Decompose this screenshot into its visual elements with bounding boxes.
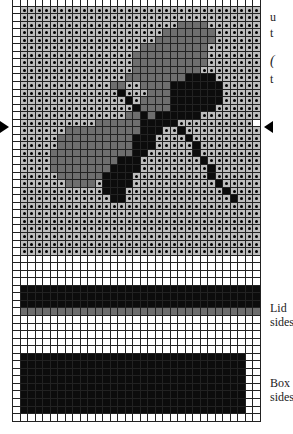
grid-cell: [238, 112, 246, 120]
grid-cell: [178, 346, 186, 354]
grid-cell: [171, 29, 179, 37]
grid-cell: [118, 407, 126, 415]
grid-cell: [223, 248, 231, 256]
grid-cell: [193, 210, 201, 218]
grid-cell: [193, 376, 201, 384]
grid-cell: [36, 135, 44, 143]
grid-cell: [13, 339, 21, 347]
grid-cell: [141, 29, 149, 37]
grid-cell: [111, 263, 119, 271]
grid-cell: [111, 293, 119, 301]
grid-cell: [156, 157, 164, 165]
grid-cell: [103, 407, 111, 415]
grid-cell: [133, 7, 141, 15]
grid-cell: [223, 210, 231, 218]
grid-cell: [193, 369, 201, 377]
grid-cell: [246, 52, 254, 60]
grid-cell: [73, 157, 81, 165]
grid-cell: [133, 142, 141, 150]
grid-cell: [126, 218, 134, 226]
grid-cell: [51, 97, 59, 105]
grid-cell: [96, 308, 104, 316]
grid-cell: [126, 301, 134, 309]
grid-cell: [171, 142, 179, 150]
grid-cell: [216, 135, 224, 143]
grid-cell: [21, 112, 29, 120]
grid-cell: [96, 414, 104, 422]
grid-cell: [88, 376, 96, 384]
grid-cell: [148, 59, 156, 67]
grid-cell: [186, 384, 194, 392]
grid-cell: [111, 37, 119, 45]
grid-cell: [223, 339, 231, 347]
grid-cell: [246, 218, 254, 226]
grid-cell: [133, 316, 141, 324]
grid-cell: [216, 127, 224, 135]
grid-cell: [88, 361, 96, 369]
grid-cell: [186, 67, 194, 75]
grid-cell: [43, 339, 51, 347]
grid-cell: [28, 376, 36, 384]
grid-cell: [43, 52, 51, 60]
grid-cell: [156, 293, 164, 301]
grid-cell: [133, 82, 141, 90]
grid-cell: [148, 29, 156, 37]
grid-cell: [186, 233, 194, 241]
grid-cell: [111, 173, 119, 181]
grid-cell: [163, 293, 171, 301]
grid-cell: [21, 369, 29, 377]
grid-cell: [253, 407, 261, 415]
grid-cell: [238, 210, 246, 218]
grid-cell: [186, 37, 194, 45]
grid-cell: [118, 278, 126, 286]
grid-cell: [193, 142, 201, 150]
grid-cell: [253, 361, 261, 369]
grid-cell: [13, 195, 21, 203]
grid-cell: [163, 369, 171, 377]
grid-cell: [126, 399, 134, 407]
grid-cell: [88, 37, 96, 45]
grid-cell: [28, 369, 36, 377]
grid-cell: [28, 14, 36, 22]
grid-cell: [66, 29, 74, 37]
grid-cell: [103, 195, 111, 203]
grid-cell: [253, 59, 261, 67]
grid-cell: [156, 369, 164, 377]
grid-cell: [141, 150, 149, 158]
grid-cell: [51, 225, 59, 233]
grid-cell: [126, 203, 134, 211]
grid-cell: [43, 271, 51, 279]
grid-cell: [171, 7, 179, 15]
grid-cell: [201, 301, 209, 309]
grid-cell: [208, 22, 216, 30]
grid-cell: [186, 225, 194, 233]
grid-cell: [58, 180, 66, 188]
grid-cell: [66, 241, 74, 249]
grid-cell: [148, 127, 156, 135]
grid-cell: [21, 384, 29, 392]
grid-cell: [253, 286, 261, 294]
grid-cell: [193, 7, 201, 15]
grid-cell: [201, 263, 209, 271]
grid-cell: [81, 22, 89, 30]
grid-cell: [58, 346, 66, 354]
grid-cell: [193, 165, 201, 173]
grid-cell: [253, 308, 261, 316]
grid-cell: [58, 150, 66, 158]
grid-cell: [36, 301, 44, 309]
grid-cell: [103, 44, 111, 52]
grid-cell: [21, 339, 29, 347]
grid-cell: [81, 391, 89, 399]
grid-cell: [216, 407, 224, 415]
grid-cell: [171, 301, 179, 309]
grid-cell: [201, 188, 209, 196]
grid-cell: [111, 188, 119, 196]
grid-cell: [171, 399, 179, 407]
grid-cell: [156, 407, 164, 415]
grid-cell: [156, 105, 164, 113]
grid-cell: [103, 271, 111, 279]
grid-cell: [43, 112, 51, 120]
grid-cell: [96, 278, 104, 286]
side-text-1: u: [270, 10, 276, 24]
grid-cell: [156, 241, 164, 249]
